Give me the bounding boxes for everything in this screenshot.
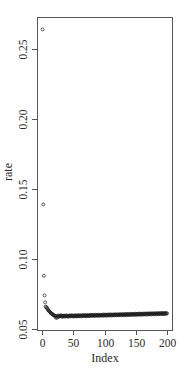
data-points <box>41 28 168 319</box>
y-tick-label: 0.05 <box>17 319 29 339</box>
data-point <box>41 28 44 31</box>
y-tick-label: 0.15 <box>17 179 29 199</box>
y-axis-title: rate <box>1 163 15 181</box>
x-axis: 050100150200 <box>40 330 177 349</box>
data-point <box>44 301 47 304</box>
y-tick-label: 0.20 <box>17 109 29 129</box>
data-point <box>42 274 45 277</box>
x-tick-label: 200 <box>159 337 177 349</box>
plot-box <box>38 18 173 331</box>
x-tick-label: 150 <box>128 337 146 349</box>
y-axis: 0.050.100.150.200.25 <box>17 39 37 339</box>
x-tick-label: 50 <box>68 337 80 349</box>
y-tick-label: 0.10 <box>17 249 29 269</box>
data-point <box>43 294 46 297</box>
x-tick-label: 0 <box>40 337 46 349</box>
x-axis-title: Index <box>91 351 118 365</box>
y-tick-label: 0.25 <box>17 39 29 59</box>
scatter-chart: 0.050.100.150.200.25 050100150200 Index … <box>0 0 188 373</box>
data-point <box>42 203 45 206</box>
x-tick-label: 100 <box>97 337 115 349</box>
